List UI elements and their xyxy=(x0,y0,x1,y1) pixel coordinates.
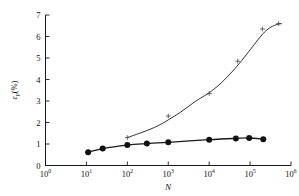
x-tick-label: 102 xyxy=(122,168,134,178)
data-point-marker xyxy=(260,136,266,142)
x-tick-label: 104 xyxy=(204,168,216,178)
x-tick-label: 105 xyxy=(244,168,255,178)
x-axis-tick-labels: 100101102103104105106 xyxy=(40,168,297,178)
data-point-marker xyxy=(246,135,252,141)
chart-plot-area: 01234567 100101102103104105106 N εp(%) xyxy=(0,0,299,196)
data-point-marker xyxy=(125,135,130,140)
svg-text:εp(%): εp(%) xyxy=(9,80,20,99)
data-point-marker xyxy=(233,135,239,141)
data-point-marker xyxy=(85,149,91,155)
data-point-marker xyxy=(166,114,171,119)
y-axis-ticks xyxy=(46,15,50,166)
data-point-marker xyxy=(124,142,130,148)
y-tick-label: 7 xyxy=(36,10,40,20)
x-axis-title: N xyxy=(164,182,172,192)
data-point-marker xyxy=(144,141,150,147)
y-axis-title: εp(%) xyxy=(9,80,20,99)
data-point-marker xyxy=(260,27,265,32)
y-tick-label: 3 xyxy=(36,96,40,106)
data-point-marker xyxy=(165,139,171,145)
x-tick-label: 100 xyxy=(40,168,52,178)
data-point-marker xyxy=(276,21,281,26)
series-line-upper-curve xyxy=(127,24,282,138)
chart-figure: 01234567 100101102103104105106 N εp(%) xyxy=(0,0,299,196)
y-tick-label: 6 xyxy=(36,32,40,42)
data-point-marker xyxy=(100,146,106,152)
y-axis-tick-labels: 01234567 xyxy=(36,10,41,171)
y-tick-label: 5 xyxy=(36,53,40,63)
x-axis-ticks xyxy=(46,162,292,166)
chart-series-lines xyxy=(88,24,282,153)
y-tick-label: 2 xyxy=(36,118,40,128)
chart-series-markers xyxy=(85,21,281,155)
data-point-marker xyxy=(206,137,212,143)
x-tick-label: 106 xyxy=(285,168,297,178)
y-tick-label: 4 xyxy=(36,75,41,85)
x-tick-label: 101 xyxy=(81,168,93,178)
x-tick-label: 103 xyxy=(163,168,175,178)
y-tick-label: 1 xyxy=(36,139,40,149)
